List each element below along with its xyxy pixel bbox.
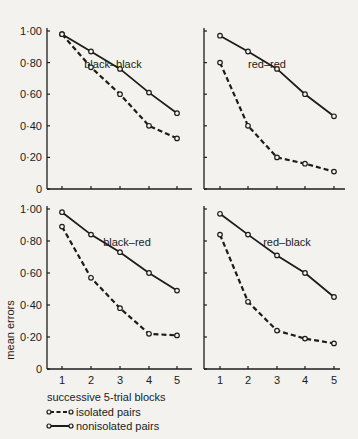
data-point-marker-icon: [60, 224, 65, 229]
data-point-marker-icon: [175, 111, 180, 116]
y-tick-label: 0·40: [20, 120, 42, 132]
data-point-marker-icon: [60, 210, 65, 215]
data-point-marker-icon: [246, 49, 251, 54]
y-tick-label: 0·60: [20, 88, 42, 100]
legend-label-isolated: isolated pairs: [76, 406, 141, 418]
y-axis-title: mean errors: [4, 300, 16, 360]
data-point-marker-icon: [175, 288, 180, 293]
y-tick-label: 0·20: [20, 151, 42, 163]
x-tick-label: 3: [117, 374, 123, 386]
data-point-marker-icon: [332, 169, 337, 174]
x-tick-label: 5: [174, 374, 180, 386]
x-axis-title: successive 5-trial blocks: [47, 391, 166, 403]
x-tick-label: 4: [302, 374, 308, 386]
data-point-marker-icon: [60, 32, 65, 37]
x-tick-label: 3: [274, 374, 280, 386]
data-point-marker-icon: [275, 328, 280, 333]
data-point-marker-icon: [118, 67, 123, 72]
data-point-marker-icon: [118, 92, 123, 97]
data-point-marker-icon: [218, 212, 223, 217]
legend: isolated pairs nonisolated pairs: [47, 406, 160, 432]
y-tick-label: 0·20: [20, 331, 42, 343]
data-point-marker-icon: [303, 271, 308, 276]
data-point-marker-icon: [218, 60, 223, 65]
y-tick-label: 0: [36, 183, 42, 195]
data-point-marker-icon: [275, 67, 280, 72]
data-point-marker-icon: [275, 253, 280, 258]
data-point-marker-icon: [218, 33, 223, 38]
data-point-marker-icon: [89, 232, 94, 237]
y-tick-label: 1·00: [20, 203, 42, 215]
data-point-marker-icon: [118, 306, 123, 311]
x-tick-label: 4: [146, 374, 152, 386]
data-point-marker-icon: [118, 250, 123, 255]
series-nonisolated-line: [62, 34, 177, 113]
data-point-marker-icon: [147, 332, 152, 337]
x-tick-label: 1: [217, 374, 223, 386]
panel-top-left: 00·200·400·600·801·00black–black: [20, 25, 192, 195]
legend-entry-nonisolated: nonisolated pairs: [47, 420, 160, 432]
data-point-marker-icon: [303, 161, 308, 166]
data-point-marker-icon: [175, 333, 180, 338]
data-point-marker-icon: [332, 295, 337, 300]
legend-label-nonisolated: nonisolated pairs: [76, 420, 160, 432]
data-point-marker-icon: [303, 336, 308, 341]
data-point-marker-icon: [246, 232, 251, 237]
y-tick-label: 1·00: [20, 25, 42, 37]
y-tick-label: 0·40: [20, 299, 42, 311]
panels-group: 00·200·400·600·801·00black–blackred–red0…: [20, 25, 345, 386]
legend-marker-icon: [69, 410, 73, 414]
legend-marker-icon: [47, 410, 51, 414]
data-point-marker-icon: [332, 114, 337, 119]
series-isolated-line: [62, 34, 177, 138]
data-point-marker-icon: [332, 341, 337, 346]
series-isolated-line: [220, 235, 334, 344]
data-point-marker-icon: [89, 49, 94, 54]
data-point-marker-icon: [275, 155, 280, 160]
data-point-marker-icon: [147, 124, 152, 129]
data-point-marker-icon: [89, 65, 94, 70]
series-nonisolated-line: [220, 36, 334, 117]
data-point-marker-icon: [303, 92, 308, 97]
panel-title: red–red: [248, 58, 286, 70]
data-point-marker-icon: [246, 124, 251, 129]
x-tick-label: 2: [245, 374, 251, 386]
y-tick-label: 0: [36, 363, 42, 375]
data-point-marker-icon: [175, 136, 180, 141]
legend-entry-isolated: isolated pairs: [47, 406, 141, 418]
data-point-marker-icon: [147, 90, 152, 95]
y-tick-label: 0·60: [20, 267, 42, 279]
panel-title: red–black: [263, 236, 311, 248]
legend-marker-icon: [47, 424, 51, 428]
data-point-marker-icon: [218, 232, 223, 237]
panel-bottom-left: 00·200·400·600·801·0012345black–red: [20, 203, 192, 386]
x-tick-label: 2: [88, 374, 94, 386]
data-point-marker-icon: [246, 300, 251, 305]
y-tick-label: 0·80: [20, 57, 42, 69]
data-point-marker-icon: [147, 271, 152, 276]
x-tick-label: 5: [331, 374, 337, 386]
panel-top-right: red–red: [204, 28, 345, 189]
panel-bottom-right: 12345red–black: [204, 206, 340, 386]
legend-marker-icon: [69, 424, 73, 428]
x-tick-label: 1: [59, 374, 65, 386]
data-point-marker-icon: [89, 276, 94, 281]
y-tick-label: 0·80: [20, 235, 42, 247]
chart-figure: 00·200·400·600·801·00black–blackred–red0…: [0, 0, 358, 439]
